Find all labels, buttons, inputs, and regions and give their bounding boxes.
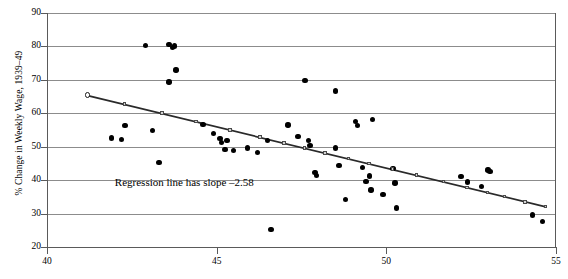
- regression-marker: [228, 128, 232, 132]
- x-axis-line: [47, 247, 556, 248]
- regression-marker: [85, 92, 90, 97]
- scatter-plot-figure: % Change in Weekly Wage, 1939–49 2030405…: [0, 0, 568, 279]
- regression-marker: [347, 157, 351, 161]
- x-tick-label-50: 50: [371, 256, 401, 266]
- data-point: [530, 212, 535, 217]
- y-tick-label-40: 40: [0, 175, 50, 185]
- regression-slope-annotation: Regression line has slope –2.58: [115, 176, 254, 188]
- y-tick-label-60: 60: [0, 108, 50, 118]
- regression-marker: [486, 191, 490, 195]
- regression-marker: [503, 195, 507, 199]
- data-point: [109, 135, 114, 140]
- regression-marker: [258, 135, 262, 139]
- regression-marker: [282, 141, 286, 145]
- x-tick-label-40: 40: [32, 256, 62, 266]
- regression-marker: [323, 151, 327, 155]
- data-point: [367, 173, 372, 178]
- x-tick-mark-40: [47, 247, 48, 254]
- data-point: [150, 128, 155, 133]
- y-tick-label-90: 90: [0, 8, 50, 18]
- x-tick-mark-45: [217, 247, 218, 254]
- regression-marker: [194, 120, 198, 124]
- data-point: [307, 143, 312, 148]
- data-point: [394, 205, 399, 210]
- data-point: [245, 145, 250, 150]
- y-tick-label-80: 80: [0, 41, 50, 51]
- data-point: [368, 187, 373, 192]
- data-point: [333, 88, 338, 93]
- data-point: [166, 79, 171, 84]
- regression-marker: [367, 162, 371, 166]
- plot-area: [47, 13, 556, 247]
- data-point: [333, 145, 338, 150]
- y-tick-label-70: 70: [0, 75, 50, 85]
- regression-marker: [544, 205, 548, 209]
- regression-marker: [160, 111, 164, 115]
- data-point: [285, 122, 290, 127]
- data-point: [336, 163, 341, 168]
- data-point: [224, 138, 229, 143]
- x-tick-label-55: 55: [541, 256, 568, 266]
- data-point: [302, 78, 307, 83]
- data-point: [465, 179, 470, 184]
- y-tick-label-20: 20: [0, 242, 50, 252]
- data-point: [295, 134, 300, 139]
- regression-marker: [303, 146, 307, 150]
- data-point: [363, 179, 368, 184]
- data-point: [172, 43, 177, 48]
- x-tick-mark-55: [556, 247, 557, 254]
- x-tick-mark-50: [386, 247, 387, 254]
- data-point: [487, 169, 492, 174]
- regression-marker: [391, 167, 395, 171]
- data-point: [173, 67, 178, 72]
- regression-marker: [523, 200, 527, 204]
- data-point: [268, 227, 273, 232]
- y-tick-label-50: 50: [0, 142, 50, 152]
- y-tick-label-30: 30: [0, 209, 50, 219]
- data-point: [380, 192, 385, 197]
- data-point: [392, 180, 397, 185]
- data-point: [458, 174, 463, 179]
- regression-marker: [415, 173, 419, 177]
- regression-marker: [465, 186, 469, 190]
- regression-marker: [123, 102, 127, 106]
- regression-marker: [442, 180, 446, 184]
- data-point: [122, 123, 127, 128]
- x-tick-label-45: 45: [202, 256, 232, 266]
